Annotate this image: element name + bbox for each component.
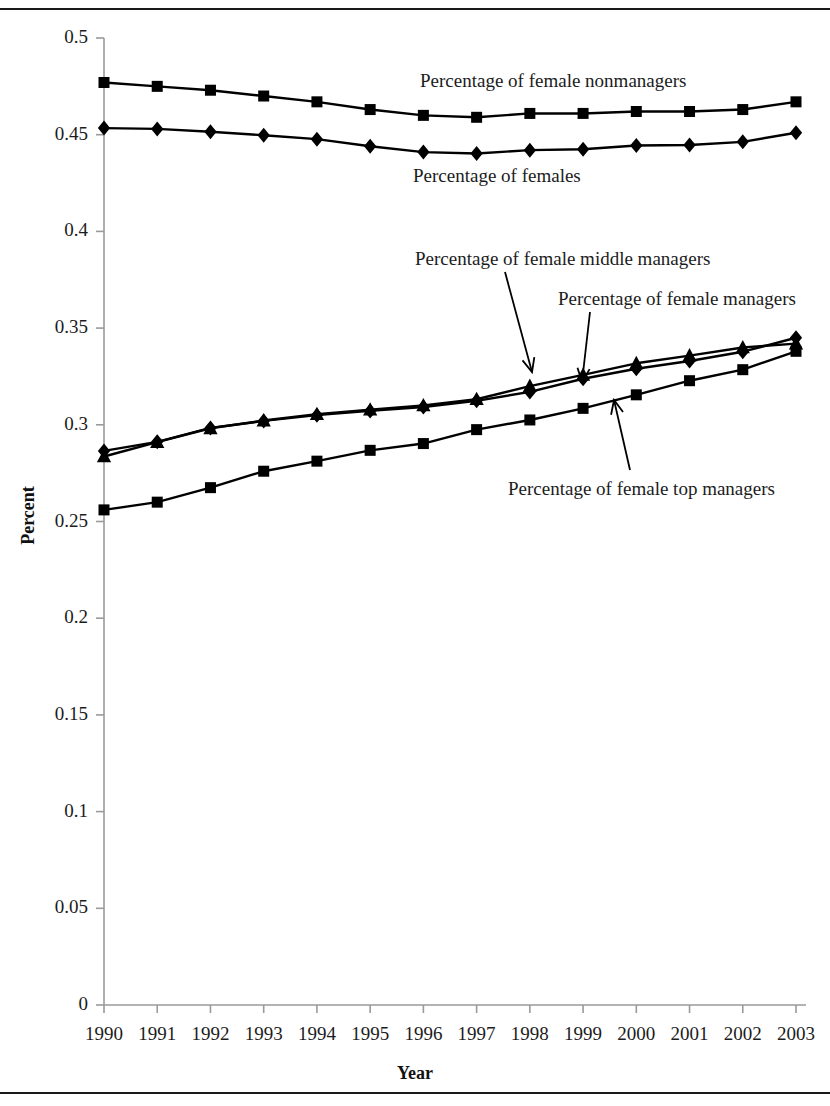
data-point-marker bbox=[99, 504, 110, 515]
x-axis-title: Year bbox=[0, 1063, 830, 1084]
data-point-marker bbox=[631, 106, 642, 117]
data-point-marker bbox=[311, 96, 322, 107]
annotation-females: Percentage of females bbox=[413, 165, 581, 187]
y-tick-label: 0 bbox=[18, 993, 88, 1015]
data-point-marker bbox=[204, 124, 216, 139]
data-point-marker bbox=[577, 142, 589, 157]
data-point-marker bbox=[311, 456, 322, 467]
data-point-marker bbox=[364, 139, 376, 154]
data-point-marker bbox=[578, 108, 589, 119]
data-point-marker bbox=[524, 143, 536, 158]
data-point-marker bbox=[258, 466, 269, 477]
x-tick-label: 1997 bbox=[449, 1023, 505, 1045]
data-point-marker bbox=[152, 81, 163, 92]
data-point-marker bbox=[417, 145, 429, 160]
x-tick-label: 2001 bbox=[662, 1023, 718, 1045]
annotation-managers: Percentage of female managers bbox=[558, 288, 796, 310]
data-point-marker bbox=[630, 138, 642, 153]
y-tick-label: 0.4 bbox=[18, 219, 88, 241]
x-tick-label: 1996 bbox=[395, 1023, 451, 1045]
data-point-marker bbox=[683, 137, 695, 152]
data-point-marker bbox=[684, 375, 695, 386]
data-point-marker bbox=[98, 121, 110, 136]
data-point-marker bbox=[791, 96, 802, 107]
y-tick-label: 0.05 bbox=[18, 896, 88, 918]
data-point-marker bbox=[311, 132, 323, 147]
y-tick-label: 0.3 bbox=[18, 413, 88, 435]
series-1 bbox=[98, 121, 802, 161]
data-point-marker bbox=[258, 91, 269, 102]
figure-container: 00.050.10.150.20.250.30.350.40.450.5 199… bbox=[0, 0, 830, 1106]
data-point-marker bbox=[631, 389, 642, 400]
y-tick-label: 0.35 bbox=[18, 316, 88, 338]
annotation-nonmanagers: Percentage of female nonmanagers bbox=[420, 70, 686, 92]
y-tick-label: 0.2 bbox=[18, 606, 88, 628]
data-point-marker bbox=[205, 482, 216, 493]
annotation-middle-managers-leader-line bbox=[505, 272, 532, 372]
data-point-marker bbox=[470, 146, 482, 161]
series-2 bbox=[98, 330, 802, 458]
data-point-marker bbox=[99, 77, 110, 88]
x-tick-label: 1998 bbox=[502, 1023, 558, 1045]
y-tick-label: 0.45 bbox=[18, 123, 88, 145]
data-point-marker bbox=[471, 112, 482, 123]
x-tick-label: 2002 bbox=[715, 1023, 771, 1045]
data-point-marker bbox=[152, 497, 163, 508]
data-point-marker bbox=[365, 445, 376, 456]
data-point-marker bbox=[258, 128, 270, 143]
data-point-marker bbox=[791, 346, 802, 357]
data-point-marker bbox=[524, 108, 535, 119]
x-tick-label: 1994 bbox=[289, 1023, 345, 1045]
data-point-marker bbox=[737, 364, 748, 375]
y-axis-title: Percent bbox=[18, 466, 39, 566]
data-point-marker bbox=[471, 424, 482, 435]
data-point-marker bbox=[365, 104, 376, 115]
annotation-middle-managers: Percentage of female middle managers bbox=[415, 248, 710, 270]
y-tick-label: 0.15 bbox=[18, 703, 88, 725]
y-tick-label: 0.1 bbox=[18, 800, 88, 822]
x-tick-label: 1991 bbox=[129, 1023, 185, 1045]
data-point-marker bbox=[418, 438, 429, 449]
x-tick-label: 1993 bbox=[236, 1023, 292, 1045]
data-point-marker bbox=[578, 403, 589, 414]
x-tick-label: 2003 bbox=[768, 1023, 824, 1045]
data-point-marker bbox=[790, 125, 802, 140]
data-point-marker bbox=[205, 85, 216, 96]
x-tick-label: 1995 bbox=[342, 1023, 398, 1045]
data-point-marker bbox=[151, 121, 163, 136]
annotation-top-managers: Percentage of female top managers bbox=[508, 478, 775, 500]
data-point-marker bbox=[684, 106, 695, 117]
data-point-marker bbox=[524, 414, 535, 425]
y-tick-label: 0.5 bbox=[18, 26, 88, 48]
data-point-marker bbox=[737, 104, 748, 115]
data-point-marker bbox=[737, 134, 749, 149]
x-tick-label: 2000 bbox=[608, 1023, 664, 1045]
x-tick-label: 1992 bbox=[182, 1023, 238, 1045]
data-point-marker bbox=[418, 110, 429, 121]
x-tick-label: 1999 bbox=[555, 1023, 611, 1045]
x-tick-label: 1990 bbox=[76, 1023, 132, 1045]
series-3 bbox=[97, 336, 803, 462]
